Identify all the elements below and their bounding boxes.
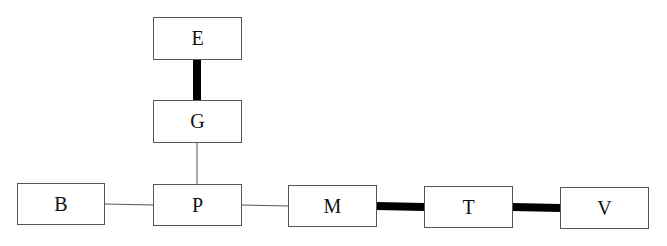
node-t-label: T [462,196,474,219]
node-b: B [17,183,105,225]
edge-m-t [377,206,424,207]
node-e-label: E [191,27,203,50]
node-v: V [560,187,649,229]
node-e: E [153,17,242,60]
node-t: T [424,186,513,228]
edge-b-p [105,204,153,205]
node-g: G [153,100,242,143]
node-p-label: P [192,194,203,217]
edge-p-m [242,205,288,206]
diagram-canvas: E G B P M T V [0,0,667,246]
node-m: M [288,185,377,227]
node-b-label: B [54,193,67,216]
node-p: P [153,184,242,226]
node-v-label: V [597,197,611,220]
node-g-label: G [190,110,204,133]
node-m-label: M [324,195,342,218]
edge-t-v [513,207,560,208]
